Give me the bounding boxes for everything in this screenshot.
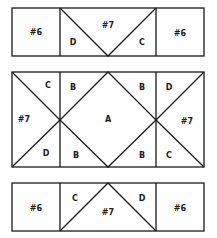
left-square-diagonal-a	[12, 72, 60, 120]
center-diamond-label: A	[105, 115, 111, 124]
top-right-block-label: #6	[174, 29, 186, 38]
top-center-block-label: #7	[102, 21, 114, 30]
left-square-diagonal-b	[12, 120, 60, 167]
bottom-left-block-label: #6	[30, 204, 42, 213]
right-square-diagonal-a	[156, 72, 204, 120]
right-square-top-label: D	[166, 83, 173, 92]
bottom-right-block-label: #6	[174, 204, 186, 213]
center-bottom-left-label: B	[73, 151, 79, 160]
bottom-center-left-triangle-label: C	[72, 194, 78, 203]
right-square-bottom-label: C	[166, 151, 172, 160]
bottom-center-right-triangle-label: D	[139, 194, 146, 203]
left-square-top-label: C	[45, 81, 51, 90]
left-square-bottom-label: D	[43, 149, 50, 158]
right-square-diagonal-b	[156, 120, 204, 167]
center-top-right-label: B	[139, 83, 145, 92]
bottom-center-block-label: #7	[102, 208, 114, 217]
center-bottom-right-label: B	[139, 151, 145, 160]
top-row-v-seam	[60, 8, 156, 56]
top-center-left-triangle-label: D	[70, 38, 77, 47]
top-center-right-triangle-label: C	[139, 38, 145, 47]
right-square-right-label: #7	[181, 117, 193, 126]
center-top-left-label: B	[70, 83, 76, 92]
left-square-left-label: #7	[18, 115, 30, 124]
top-left-block-label: #6	[30, 28, 42, 37]
